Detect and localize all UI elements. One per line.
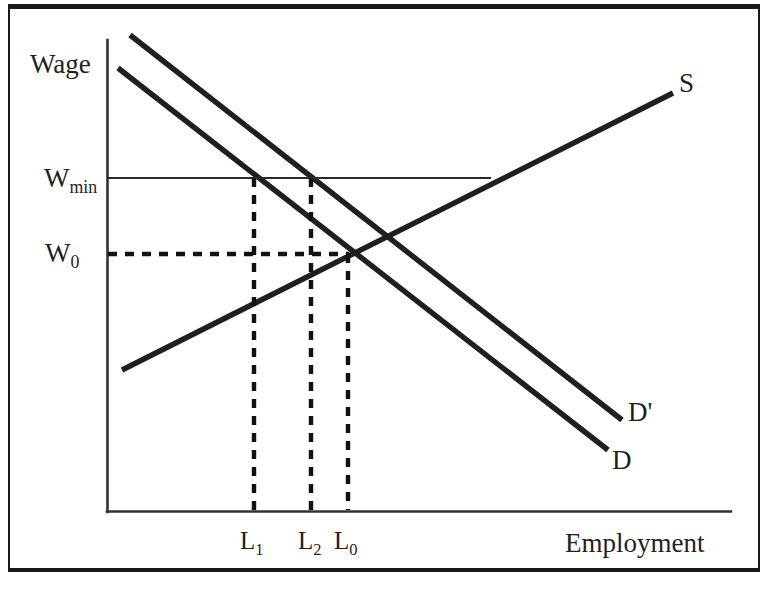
y-tick-label-w0: W0 — [45, 240, 79, 272]
figure-container: Wage Employment Wmin W0 L1 L2 L0 S D' D — [0, 0, 767, 593]
curve-label-demand-shifted: D' — [628, 399, 652, 426]
x-tick-label-l0: L0 — [334, 528, 358, 559]
x-tick-l1-subscript: 1 — [255, 540, 263, 559]
y-tick-label-wmin: Wmin — [44, 165, 97, 197]
curve-demand — [118, 68, 608, 450]
curve-label-demand: D — [612, 447, 632, 474]
y-tick-wmin-base: W — [44, 163, 69, 193]
x-tick-l2-subscript: 2 — [313, 540, 321, 559]
y-tick-w0-subscript: 0 — [70, 252, 79, 272]
x-tick-label-l2: L2 — [298, 528, 322, 559]
x-tick-label-l1: L1 — [240, 528, 264, 559]
curve-label-supply: S — [679, 70, 694, 97]
x-tick-l0-base: L — [334, 527, 349, 554]
plot-area — [0, 0, 767, 593]
x-axis-label: Employment — [565, 530, 704, 557]
x-tick-l1-base: L — [240, 527, 255, 554]
y-tick-wmin-subscript: min — [69, 177, 97, 197]
curve-demand-shifted — [130, 35, 622, 420]
x-tick-l0-subscript: 0 — [349, 540, 357, 559]
y-axis-label: Wage — [30, 51, 91, 78]
x-tick-l2-base: L — [298, 527, 313, 554]
y-tick-w0-base: W — [45, 238, 70, 268]
